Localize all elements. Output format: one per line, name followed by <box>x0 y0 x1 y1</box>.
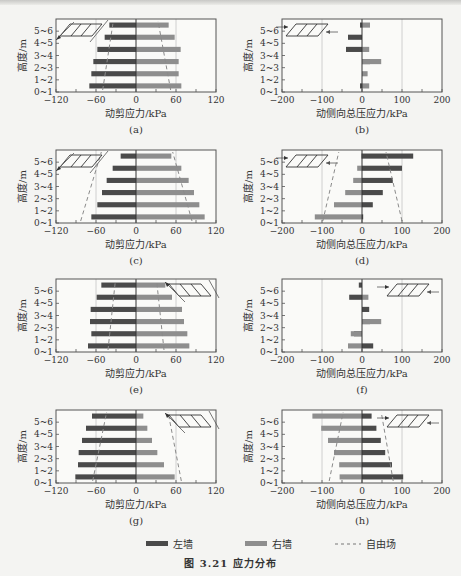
x-tick-label: 0 <box>359 486 365 496</box>
bar-left-wall <box>362 462 392 467</box>
dashed-line-icon <box>335 541 361 547</box>
figure-title: 图 3.21 应力分布 <box>0 555 461 570</box>
y-axis-title: 高度/m <box>242 430 254 463</box>
legend-item-left-wall: 左墙 <box>146 536 193 551</box>
legend-item-right-wall: 右墙 <box>245 536 292 551</box>
bar-left-wall <box>362 438 381 443</box>
y-tick-label: 1~2 <box>260 466 279 476</box>
bar-right-wall <box>321 426 362 431</box>
legend: 左墙 右墙 自由场 <box>0 536 461 552</box>
bar-right-wall <box>328 438 362 443</box>
y-tick-label: 5~6 <box>260 417 279 427</box>
x-axis-title: 动侧向总压应力/kPa <box>316 498 408 510</box>
legend-label-left-wall: 左墙 <box>173 536 193 551</box>
bar-left-wall <box>362 426 376 431</box>
y-tick-label: 4~5 <box>260 429 279 439</box>
y-tick-label: 3~4 <box>260 442 279 452</box>
x-tick-label: −100 <box>310 486 335 496</box>
bar-left-wall <box>362 474 403 479</box>
x-tick-label: 200 <box>433 486 450 496</box>
legend-label-right-wall: 右墙 <box>272 536 292 551</box>
left-wall-swatch-icon <box>146 541 168 546</box>
legend-item-free-field: 自由场 <box>335 536 396 551</box>
legend-label-free-field: 自由场 <box>366 536 396 551</box>
bar-right-wall <box>339 462 362 467</box>
chart-svg-h: −200−10001002000~11~22~33~44~55~6动侧向总压应力… <box>0 0 461 576</box>
y-tick-label: 0~1 <box>260 478 279 488</box>
y-tick-label: 2~3 <box>260 454 279 464</box>
x-tick-label: 100 <box>393 486 410 496</box>
right-wall-swatch-icon <box>245 541 267 546</box>
bar-right-wall <box>312 414 362 419</box>
bar-right-wall <box>334 450 362 455</box>
panel-caption: (h) <box>355 515 369 526</box>
bar-left-wall <box>362 450 385 455</box>
bar-left-wall <box>362 414 372 419</box>
bar-right-wall <box>340 474 362 479</box>
